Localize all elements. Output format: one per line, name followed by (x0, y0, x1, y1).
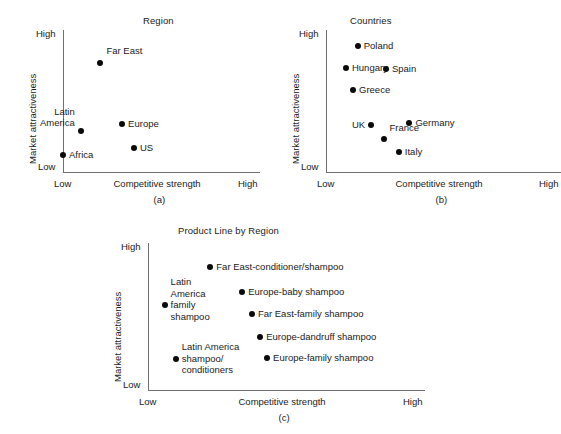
data-point (97, 60, 103, 66)
data-point (239, 289, 245, 295)
y-axis-line (326, 30, 327, 172)
y-axis-tick-low: Low (301, 161, 318, 172)
x-axis-label: Competitive strength (396, 178, 483, 189)
data-point (131, 145, 137, 151)
y-axis-tick-high: High (299, 28, 319, 39)
data-point-label: UK (352, 119, 365, 131)
x-axis-line (148, 390, 425, 391)
y-axis-tick-high: High (36, 28, 56, 39)
data-point (119, 121, 125, 127)
x-axis-tick-low: Low (317, 178, 334, 189)
x-axis-line (326, 172, 561, 173)
data-point-label: Spain (392, 63, 416, 75)
data-point-label: Europe-baby shampoo (248, 286, 344, 298)
data-point (162, 302, 168, 308)
data-point-label: Greece (359, 84, 390, 96)
data-point-label: Latin America shampoo/ conditioners (182, 341, 240, 376)
data-point-label: Europe-dandruff shampoo (266, 331, 376, 343)
y-axis-line (63, 30, 64, 172)
x-axis-tick-high: High (238, 178, 258, 189)
data-point (60, 152, 66, 158)
data-point-label: Latin America (40, 106, 75, 129)
data-point (381, 136, 387, 142)
y-axis-label: Market attractiveness (290, 74, 301, 164)
data-point (396, 149, 402, 155)
data-point (383, 66, 389, 72)
data-point (264, 355, 270, 361)
data-point (368, 122, 374, 128)
chart-panel-a: RegionMarket attractivenessHighLowLowHig… (0, 0, 280, 210)
data-point (257, 334, 263, 340)
chart-panel-c: Product Line by RegionMarket attractiven… (90, 210, 561, 434)
data-point-label: US (140, 142, 153, 154)
x-axis-line (63, 172, 260, 173)
data-point (350, 87, 356, 93)
panel-caption: (b) (436, 194, 448, 205)
chart-title: Product Line by Region (178, 225, 279, 236)
chart-title: Region (143, 15, 174, 26)
y-axis-tick-high: High (121, 241, 141, 252)
chart-panel-b: CountriesMarket attractivenessHighLowLow… (280, 0, 561, 210)
data-point-label: Germany (415, 117, 454, 129)
data-point (78, 128, 84, 134)
data-point-label: Far East (106, 45, 142, 57)
x-axis-label: Competitive strength (114, 178, 201, 189)
data-point-label: Far East-conditioner/shampoo (216, 261, 343, 273)
y-axis-tick-low: Low (38, 161, 55, 172)
data-point-label: Italy (405, 146, 422, 158)
panel-caption: (a) (154, 194, 166, 205)
data-point (173, 356, 179, 362)
x-axis-tick-high: High (539, 178, 559, 189)
data-point-label: Africa (69, 149, 93, 161)
data-point-label: Poland (364, 40, 394, 52)
x-axis-tick-low: Low (54, 178, 71, 189)
data-point (355, 43, 361, 49)
x-axis-label: Competitive strength (239, 396, 326, 407)
x-axis-tick-low: Low (139, 396, 156, 407)
data-point-label: Far East-family shampoo (258, 308, 364, 320)
x-axis-tick-high: High (403, 396, 423, 407)
data-point-label: Europe-family shampoo (273, 352, 373, 364)
data-point-label: Latin America family shampoo (171, 276, 210, 322)
y-axis-line (148, 243, 149, 390)
y-axis-label: Market attractiveness (112, 292, 123, 382)
data-point (207, 264, 213, 270)
data-point (343, 65, 349, 71)
y-axis-label: Market attractiveness (27, 74, 38, 164)
panel-caption: (c) (279, 412, 290, 423)
y-axis-tick-low: Low (123, 379, 140, 390)
data-point (249, 311, 255, 317)
chart-title: Countries (350, 15, 392, 26)
data-point-label: Europe (128, 118, 159, 130)
